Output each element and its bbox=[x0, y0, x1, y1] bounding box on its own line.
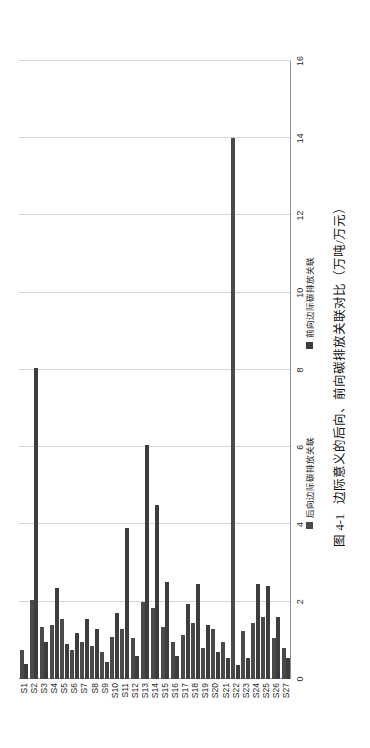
bar bbox=[221, 642, 225, 679]
bar bbox=[226, 658, 230, 679]
category-label: S6 bbox=[69, 683, 79, 693]
bar-row: S3 bbox=[39, 61, 49, 679]
category-label: S27 bbox=[281, 683, 291, 698]
category-label: S26 bbox=[271, 683, 281, 698]
plot-area: S1S2S3S4S5S6S7S8S9S10S11S12S13S14S15S16S… bbox=[19, 61, 291, 679]
bar bbox=[155, 505, 159, 679]
bar-row: S8 bbox=[90, 61, 100, 679]
legend-label-forward: 前向边际碳排放关联 bbox=[303, 257, 315, 338]
page-header bbox=[28, 0, 278, 12]
bar bbox=[105, 662, 109, 679]
bar bbox=[110, 637, 114, 679]
bar-row: S11 bbox=[120, 61, 130, 679]
figure-number: 图 4-1 bbox=[333, 514, 347, 547]
category-label: S7 bbox=[79, 683, 89, 693]
bar bbox=[181, 635, 185, 679]
bar-row: S2 bbox=[29, 61, 39, 679]
bar bbox=[241, 631, 245, 679]
bar bbox=[85, 619, 89, 679]
bar bbox=[216, 652, 220, 679]
bar-row: S14 bbox=[150, 61, 160, 679]
bar bbox=[125, 528, 129, 679]
legend-swatch-forward bbox=[306, 342, 313, 349]
axis-baseline bbox=[290, 61, 291, 679]
bar-row: S15 bbox=[160, 61, 170, 679]
bar bbox=[131, 638, 135, 679]
bar-row: S20 bbox=[210, 61, 220, 679]
category-label: S4 bbox=[49, 683, 59, 693]
bar bbox=[272, 638, 276, 679]
bar bbox=[65, 644, 69, 679]
bar bbox=[201, 648, 205, 679]
rotated-figure-stage: S1S2S3S4S5S6S7S8S9S10S11S12S13S14S15S16S… bbox=[11, 29, 359, 719]
category-label: S24 bbox=[251, 683, 261, 698]
category-label: S1 bbox=[19, 683, 29, 693]
category-label: S8 bbox=[90, 683, 100, 693]
bar bbox=[24, 664, 28, 679]
chart-area: S1S2S3S4S5S6S7S8S9S10S11S12S13S14S15S16S… bbox=[11, 29, 359, 719]
category-label: S16 bbox=[170, 683, 180, 698]
category-label: S20 bbox=[210, 683, 220, 698]
bar bbox=[100, 652, 104, 679]
category-label: S25 bbox=[261, 683, 271, 698]
bar bbox=[236, 665, 240, 679]
bar-row: S21 bbox=[220, 61, 230, 679]
bar-row: S1 bbox=[19, 61, 29, 679]
bar bbox=[186, 604, 190, 679]
bar-row: S13 bbox=[140, 61, 150, 679]
bar-row: S16 bbox=[170, 61, 180, 679]
bar-row: S7 bbox=[79, 61, 89, 679]
figure-caption: 图 4-1边际意义的后向、前向碳排放关联对比（万吨/万元） bbox=[329, 29, 348, 719]
category-label: S15 bbox=[160, 683, 170, 698]
bar bbox=[161, 627, 165, 679]
category-label: S18 bbox=[190, 683, 200, 698]
bar bbox=[44, 642, 48, 679]
bar bbox=[75, 633, 79, 679]
bar bbox=[191, 623, 195, 679]
bar-row: S9 bbox=[100, 61, 110, 679]
category-label: S14 bbox=[150, 683, 160, 698]
bar bbox=[246, 658, 250, 679]
category-label: S10 bbox=[110, 683, 120, 698]
bar-row: S18 bbox=[190, 61, 200, 679]
bar bbox=[135, 656, 139, 679]
bar-rows: S1S2S3S4S5S6S7S8S9S10S11S12S13S14S15S16S… bbox=[19, 61, 291, 679]
bar bbox=[115, 613, 119, 679]
bar bbox=[141, 602, 145, 679]
category-label: S22 bbox=[231, 683, 241, 698]
bar bbox=[196, 584, 200, 679]
bar bbox=[145, 445, 149, 679]
bar-row: S10 bbox=[110, 61, 120, 679]
bar-row: S5 bbox=[59, 61, 69, 679]
bar-row: S12 bbox=[130, 61, 140, 679]
bar bbox=[165, 582, 169, 679]
bar bbox=[171, 642, 175, 679]
legend-swatch-backward bbox=[306, 522, 313, 529]
category-label: S19 bbox=[200, 683, 210, 698]
bar bbox=[80, 642, 84, 679]
legend-item-forward: 前向边际碳排放关联 bbox=[303, 257, 315, 349]
bar bbox=[20, 650, 24, 679]
category-label: S23 bbox=[241, 683, 251, 698]
bar-row: S22 bbox=[231, 61, 241, 679]
category-label: S2 bbox=[29, 683, 39, 693]
bar-row: S25 bbox=[261, 61, 271, 679]
bar bbox=[120, 629, 124, 679]
bar bbox=[90, 646, 94, 679]
bar-row: S23 bbox=[241, 61, 251, 679]
bar bbox=[151, 608, 155, 679]
bar-row: S6 bbox=[69, 61, 79, 679]
bar bbox=[50, 625, 54, 679]
bar bbox=[261, 617, 265, 679]
bar bbox=[251, 623, 255, 679]
category-label: S5 bbox=[59, 683, 69, 693]
bar bbox=[276, 617, 280, 679]
category-label: S17 bbox=[180, 683, 190, 698]
bar bbox=[282, 648, 286, 679]
bar bbox=[34, 368, 38, 679]
category-label: S12 bbox=[130, 683, 140, 698]
category-label: S13 bbox=[140, 683, 150, 698]
bar bbox=[175, 656, 179, 679]
bar bbox=[55, 588, 59, 679]
bar-row: S26 bbox=[271, 61, 281, 679]
